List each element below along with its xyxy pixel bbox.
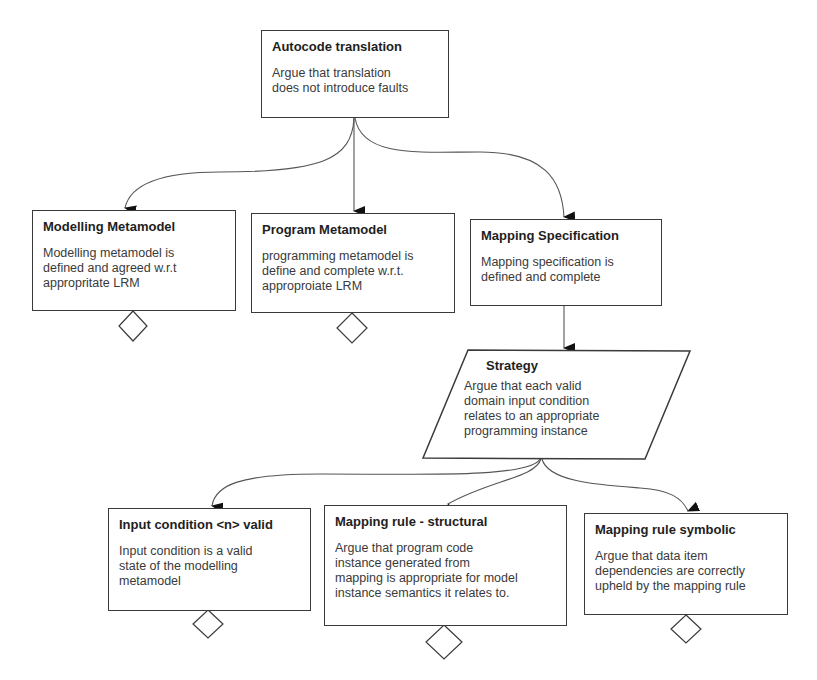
goal-program-metamodel: Program Metamodel programming metamodel … <box>251 213 455 313</box>
goal-mapping-specification: Mapping Specification Mapping specificat… <box>470 219 662 306</box>
goal-input-condition-valid: Input condition <n> valid Input conditio… <box>108 508 311 611</box>
goal-autocode-translation: Autocode translation Argue that translat… <box>261 30 449 118</box>
goal-title: Input condition <n> valid <box>119 517 300 532</box>
goal-mapping-rule-structural: Mapping rule - structural Argue that pro… <box>324 505 567 626</box>
link-strategy-structural <box>448 459 541 504</box>
link-autocode-modelling <box>125 118 354 208</box>
undeveloped-diamond-modelling <box>119 311 147 341</box>
goal-title: Mapping rule - structural <box>335 514 556 529</box>
undeveloped-diamond-input <box>193 610 223 638</box>
goal-title: Mapping Specification <box>481 228 651 243</box>
link-strategy-input <box>212 459 540 506</box>
undeveloped-diamond-symbolic <box>671 615 701 643</box>
goal-mapping-rule-symbolic: Mapping rule symbolic Argue that data it… <box>584 513 788 615</box>
goal-modelling-metamodel: Modelling Metamodel Modelling metamodel … <box>32 210 236 311</box>
goal-title: Autocode translation <box>272 39 438 54</box>
goal-body: Argue that data item dependencies are co… <box>595 549 777 594</box>
goal-title: Mapping rule symbolic <box>595 522 777 537</box>
goal-body: Modelling metamodel is defined and agree… <box>43 246 225 291</box>
goal-body: programming metamodel is define and comp… <box>262 249 444 294</box>
undeveloped-diamond-program <box>337 313 367 343</box>
link-autocode-mapping <box>355 118 564 217</box>
undeveloped-diamond-structural <box>426 625 462 659</box>
goal-body: Argue that translation does not introduc… <box>272 66 438 96</box>
strategy-title: Strategy <box>486 358 650 373</box>
link-strategy-symbolic <box>542 459 688 511</box>
goal-body: Input condition is a valid state of the … <box>119 544 300 589</box>
goal-body: Argue that program code instance generat… <box>335 541 556 601</box>
goal-title: Program Metamodel <box>262 222 444 237</box>
strategy-body: Argue that each valid domain input condi… <box>464 379 650 439</box>
goal-body: Mapping specification is defined and com… <box>481 255 651 285</box>
goal-title: Modelling Metamodel <box>43 219 225 234</box>
strategy-node: Strategy Argue that each valid domain in… <box>460 358 650 439</box>
